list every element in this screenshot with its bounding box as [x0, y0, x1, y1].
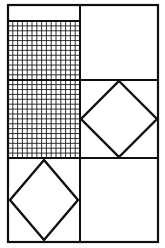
figure-canvas — [0, 0, 165, 248]
panel-top-right-square — [80, 5, 158, 80]
panel-bottom-right-square — [80, 158, 158, 242]
panel-top-left-strip — [8, 5, 80, 21]
geometric-figure — [0, 0, 165, 248]
